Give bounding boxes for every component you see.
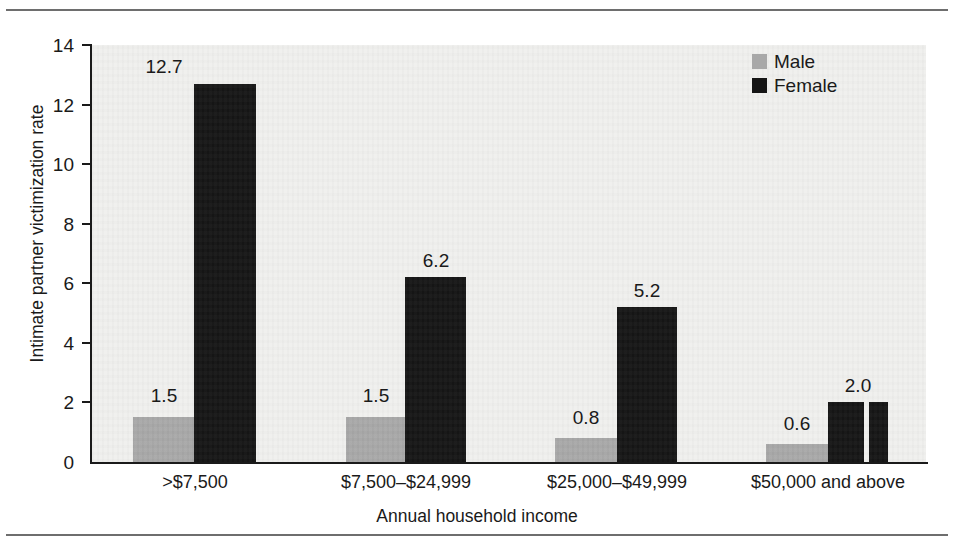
- bar-male-7500-24999: [346, 417, 405, 462]
- bar-value-label-female-25000-49999: 5.2: [634, 281, 660, 300]
- x-category-label-25000-49999: $25,000–$49,999: [547, 472, 687, 493]
- bar-female-25000-49999: [617, 307, 677, 462]
- legend: Male Female: [752, 52, 837, 95]
- bar-value-label-female-gt7500: 12.7: [146, 57, 183, 76]
- legend-swatch-male-icon: [752, 54, 767, 69]
- bar-value-label-male-7500-24999: 1.5: [363, 386, 389, 405]
- x-axis-title: Annual household income: [0, 506, 954, 527]
- bar-value-label-male-50000-above: 0.6: [784, 414, 810, 433]
- x-category-label-7500-24999: $7,500–$24,999: [341, 472, 471, 493]
- bar-female-gt7500: [194, 84, 256, 462]
- bar-female-50000-above: [828, 402, 888, 462]
- figure-chart-intimate-partner-victimization: 14 12 10 8 6 4 2 0 12.7 1.5 6.2 1.5 5.2 …: [0, 0, 954, 550]
- bar-male-50000-above: [766, 444, 828, 462]
- bottom-divider-rule: [6, 534, 948, 536]
- x-axis-line: [90, 462, 928, 464]
- bar-value-label-female-7500-24999: 6.2: [423, 251, 449, 270]
- bar-male-gt7500: [133, 417, 194, 462]
- bar-value-label-female-50000-above: 2.0: [845, 376, 871, 395]
- bar-value-label-male-gt7500: 1.5: [151, 386, 177, 405]
- legend-label-male: Male: [774, 52, 815, 71]
- top-divider-rule: [6, 9, 948, 11]
- legend-item-male: Male: [752, 52, 837, 71]
- bar-female-7500-24999: [405, 277, 466, 462]
- y-tick-label-14: 14: [40, 36, 74, 55]
- legend-item-female: Female: [752, 76, 837, 95]
- legend-swatch-female-icon: [752, 78, 767, 93]
- bar-value-label-male-25000-49999: 0.8: [573, 408, 599, 427]
- x-category-label-50000-above: $50,000 and above: [751, 472, 905, 493]
- bar-male-25000-49999: [555, 438, 617, 462]
- legend-label-female: Female: [774, 76, 837, 95]
- x-category-label-gt7500: >$7,500: [162, 472, 228, 493]
- plot-area: [92, 45, 926, 462]
- y-axis-title: Intimate partner victimization rate: [27, 54, 48, 414]
- y-tick-label-0: 0: [40, 453, 74, 472]
- scan-artifact-line: [864, 402, 869, 462]
